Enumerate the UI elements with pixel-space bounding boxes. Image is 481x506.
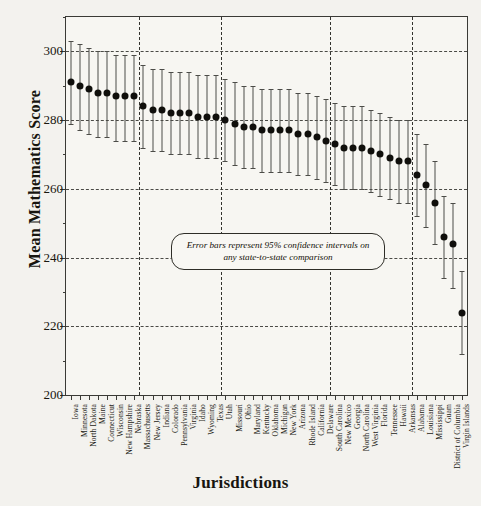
data-point[interactable] [368,148,375,155]
data-point[interactable] [377,151,384,158]
data-point[interactable] [350,144,357,151]
error-bar-cap-lower [241,168,246,169]
error-bar-cap-upper [287,89,292,90]
x-tick [289,395,290,400]
error-bar-cap-upper [123,55,128,56]
data-point[interactable] [204,113,211,120]
data-point[interactable] [413,172,420,179]
x-category-label: Missouri [235,401,244,432]
x-category-label: Arizona [298,401,307,429]
y-minor-tick [63,223,66,224]
error-bar-cap-upper [68,41,73,42]
x-tick [326,395,327,400]
x-tick [225,395,226,400]
error-bar-cap-lower [341,189,346,190]
error-bar-cap-upper [241,86,246,87]
x-tick [435,395,436,400]
data-point[interactable] [85,86,92,93]
data-point[interactable] [186,110,193,117]
y-minor-tick [63,361,66,362]
data-point[interactable] [131,93,138,100]
error-bar-cap-lower [105,137,110,138]
error-bar-cap-lower [232,165,237,166]
error-bar-cap-upper [460,271,465,272]
data-point[interactable] [441,233,448,240]
data-point[interactable] [450,240,457,247]
data-point[interactable] [268,127,275,134]
error-bar-cap-lower [205,158,210,159]
data-point[interactable] [459,309,466,316]
error-bar-cap-upper [159,69,164,70]
error-bar-cap-lower [196,158,201,159]
data-point[interactable] [331,141,338,148]
x-category-label: Ohio [244,401,253,420]
data-point[interactable] [422,182,429,189]
x-tick [253,395,254,400]
data-point[interactable] [222,117,229,124]
x-category-label: Colorado [171,401,180,433]
data-point[interactable] [149,106,156,113]
x-category-label: Maine [98,401,107,424]
x-tick [462,395,463,400]
error-bar-cap-upper [259,89,264,90]
data-point[interactable] [167,110,174,117]
x-tick [308,395,309,400]
data-point[interactable] [76,82,83,89]
data-point[interactable] [395,158,402,165]
error-bar-cap-lower [360,189,365,190]
data-point[interactable] [322,137,329,144]
data-point[interactable] [122,93,129,100]
data-point[interactable] [340,144,347,151]
data-point[interactable] [386,154,393,161]
data-point[interactable] [104,89,111,96]
x-tick [235,395,236,400]
data-point[interactable] [258,127,265,134]
data-point[interactable] [94,89,101,96]
data-point[interactable] [432,199,439,206]
x-category-label: South Carolina [335,401,344,451]
x-tick [143,395,144,400]
gridline-vertical [221,17,222,395]
x-category-label: Maryland [253,401,262,434]
data-point[interactable] [286,127,293,134]
data-point[interactable] [304,130,311,137]
error-bar-cap-lower [123,141,128,142]
error-bar-cap-upper [278,89,283,90]
data-point[interactable] [249,123,256,130]
x-category-label: District of Columbia [453,401,462,469]
data-point[interactable] [231,120,238,127]
data-point[interactable] [195,113,202,120]
y-minor-tick [63,292,66,293]
x-tick [453,395,454,400]
data-point[interactable] [176,110,183,117]
x-category-label: Tennessee [390,401,399,436]
data-point[interactable] [404,158,411,165]
error-bar-cap-lower [141,148,146,149]
x-tick [399,395,400,400]
x-tick [280,395,281,400]
error-bar-cap-lower [150,151,155,152]
data-point[interactable] [313,134,320,141]
error-bar-cap-lower [396,203,401,204]
x-category-label: Alabama [417,401,426,432]
gridline-vertical [330,17,331,395]
data-point[interactable] [67,79,74,86]
x-tick [98,395,99,400]
error-bar-cap-upper [332,103,337,104]
error-bar-cap-lower [296,175,301,176]
data-point[interactable] [277,127,284,134]
x-category-label: Kentucky [262,401,271,434]
data-point[interactable] [295,130,302,137]
data-point[interactable] [140,103,147,110]
error-bar-cap-upper [132,55,137,56]
data-point[interactable] [213,113,220,120]
data-point[interactable] [240,123,247,130]
data-point[interactable] [113,93,120,100]
x-category-label: West Virginia [371,401,380,447]
x-tick [207,395,208,400]
data-point[interactable] [158,106,165,113]
data-point[interactable] [359,144,366,151]
error-bar-cap-lower [259,172,264,173]
x-category-label: New York [289,401,298,436]
gridline-vertical [412,17,413,395]
